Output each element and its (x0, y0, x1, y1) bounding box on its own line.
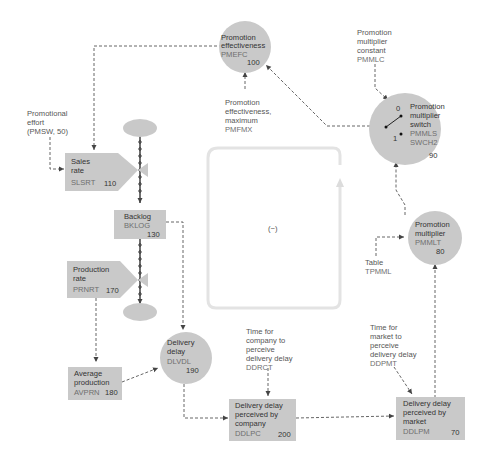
svg-text:0: 0 (396, 104, 400, 113)
loop-arrow-icon (336, 178, 344, 187)
svg-text:production: production (74, 378, 109, 387)
promotion-multiplier-switch-node[interactable]: 0 1 Promotion multiplier switch PMMLS SW… (369, 93, 445, 165)
backlog-node[interactable]: Backlog BKLOG 130 (114, 210, 166, 239)
svg-text:SWCH2: SWCH2 (410, 138, 437, 147)
link-pmmlt-to-switch (396, 162, 405, 215)
svg-text:constant: constant (357, 46, 387, 55)
source-cloud-icon (123, 119, 157, 137)
svg-text:Production: Production (73, 265, 109, 274)
svg-text:Delivery: Delivery (167, 338, 195, 347)
svg-text:perceive: perceive (246, 345, 275, 354)
svg-text:PMMLT: PMMLT (415, 238, 441, 247)
time-market-perceive-label: Time for market to perceive delivery del… (370, 323, 417, 368)
link-dlvdl-to-ddlpc (184, 384, 228, 418)
svg-text:PRNRT: PRNRT (73, 285, 99, 294)
average-production-node[interactable]: Average production AVPRN 180 (68, 367, 122, 400)
svg-text:DDLPM: DDLPM (403, 427, 430, 436)
svg-text:1: 1 (393, 134, 397, 143)
svg-text:AVPRN: AVPRN (74, 388, 100, 397)
delivery-delay-market-node[interactable]: Delivery delay perceived by market DDLPM… (396, 397, 465, 440)
svg-text:80: 80 (436, 247, 444, 256)
svg-text:100: 100 (247, 58, 260, 67)
svg-text:Delivery delay: Delivery delay (403, 399, 451, 408)
link-effort-to-sales-rate (50, 137, 64, 169)
svg-text:effort: effort (27, 118, 45, 127)
svg-text:130: 130 (147, 230, 160, 239)
loop-polarity-label: (−) (268, 224, 278, 233)
svg-text:delivery delay: delivery delay (246, 354, 293, 363)
svg-text:Table: Table (365, 258, 383, 267)
svg-text:Promotion: Promotion (415, 220, 450, 229)
svg-text:Backlog: Backlog (124, 212, 151, 221)
svg-text:Promotion: Promotion (410, 102, 445, 111)
svg-text:market: market (403, 417, 427, 426)
svg-text:perceived by: perceived by (403, 408, 446, 417)
svg-text:Sales: Sales (71, 157, 90, 166)
svg-text:Promotion: Promotion (357, 28, 392, 37)
sales-rate-node[interactable]: Sales rate SLSRT 110 (65, 153, 138, 191)
svg-text:180: 180 (105, 388, 118, 397)
sink-cloud-icon (123, 303, 157, 321)
svg-text:switch: switch (410, 120, 431, 129)
svg-text:perceive: perceive (370, 341, 399, 350)
svg-text:perceived by: perceived by (235, 410, 278, 419)
table-label: Table TPMML (365, 258, 392, 276)
svg-text:DDPMT: DDPMT (370, 359, 397, 368)
link-pmmlc-to-switch (375, 64, 388, 100)
svg-text:170: 170 (106, 286, 119, 295)
svg-text:PMMLS: PMMLS (410, 129, 437, 138)
promotional-effort-label: Promotional effort (PMSW, 50) (27, 109, 68, 136)
svg-text:TPMML: TPMML (365, 267, 392, 276)
promotion-multiplier-constant-label: Promotion multiplier constant PMMLC (357, 28, 392, 64)
svg-text:rate: rate (73, 274, 86, 283)
promotion-multiplier-node[interactable]: Promotion multiplier PMMLT 80 (408, 211, 462, 265)
feedback-loop: (−) (208, 148, 344, 308)
svg-text:200: 200 (278, 430, 291, 439)
svg-text:SLSRT: SLSRT (71, 178, 96, 187)
link-avprn-to-dlvdl (122, 368, 158, 382)
svg-text:Average: Average (74, 369, 102, 378)
svg-text:Time for: Time for (370, 323, 398, 332)
delivery-delay-node[interactable]: Delivery delay DLVDL 190 (160, 332, 212, 384)
svg-text:70: 70 (451, 428, 459, 437)
svg-text:110: 110 (104, 179, 116, 188)
link-pmefc-to-sales-rate (94, 46, 222, 150)
svg-text:Promotional: Promotional (27, 109, 68, 118)
svg-text:multiplier: multiplier (410, 111, 441, 120)
svg-text:PMEFC: PMEFC (221, 50, 248, 59)
svg-text:BKLOG: BKLOG (124, 221, 150, 230)
svg-text:PMFMX: PMFMX (225, 125, 252, 134)
svg-text:PMMLC: PMMLC (357, 55, 385, 64)
svg-text:market to: market to (370, 332, 402, 341)
promotion-effectiveness-max-label: Promotion effectiveness, maximum PMFMX (225, 98, 271, 134)
flow-diagram: (−) (0, 0, 487, 461)
svg-text:multiplier: multiplier (415, 229, 446, 238)
svg-text:maximum: maximum (225, 116, 258, 125)
svg-text:(PMSW, 50): (PMSW, 50) (27, 127, 68, 136)
svg-text:company: company (235, 419, 266, 428)
svg-text:DLVDL: DLVDL (167, 357, 191, 366)
svg-text:company to: company to (246, 336, 285, 345)
time-company-perceive-label: Time for company to perceive delivery de… (246, 327, 293, 372)
svg-text:multiplier: multiplier (357, 37, 388, 46)
link-ddlpc-to-ddlpm (296, 416, 394, 418)
link-backlog-to-dlvdl (166, 222, 183, 330)
link-table-to-pmmlt (376, 237, 404, 256)
svg-text:DDRCT: DDRCT (246, 363, 273, 372)
svg-text:190: 190 (186, 366, 199, 375)
svg-text:delivery delay: delivery delay (370, 350, 417, 359)
svg-text:Delivery delay: Delivery delay (235, 401, 283, 410)
link-ddpmt-to-ddlpm (394, 367, 412, 394)
svg-text:Time for: Time for (246, 327, 274, 336)
svg-text:Promotion: Promotion (225, 98, 260, 107)
production-rate-node[interactable]: Production rate PRNRT 170 (67, 261, 138, 298)
promotion-effectiveness-node[interactable]: Promotion effectiveness PMEFC 100 (219, 21, 271, 73)
svg-text:delay: delay (167, 347, 185, 356)
svg-text:DDLPC: DDLPC (235, 429, 261, 438)
svg-text:effectiveness,: effectiveness, (225, 107, 271, 116)
delivery-delay-company-node[interactable]: Delivery delay perceived by company DDLP… (229, 399, 296, 441)
svg-text:90: 90 (429, 151, 437, 160)
svg-text:effectiveness: effectiveness (221, 41, 265, 50)
svg-text:rate: rate (71, 166, 84, 175)
link-switch-to-pmefc (266, 65, 385, 126)
